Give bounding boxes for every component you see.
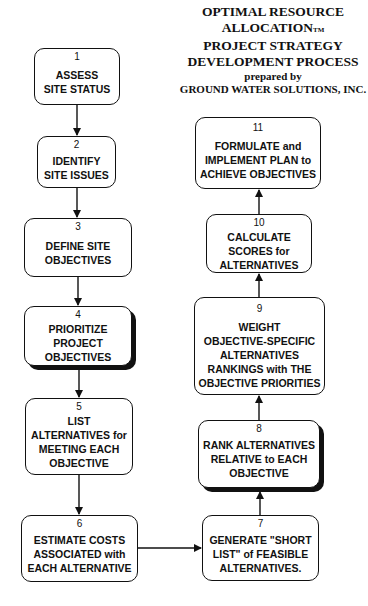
step-label: RANK ALTERNATIVES RELATIVE to EACH OBJEC… [203, 438, 315, 480]
step-label: GENERATE "SHORT LIST" of FEASIBLE ALTERN… [209, 533, 311, 575]
step-number: 8 [256, 423, 262, 435]
step-3-box: 3 DEFINE SITE OBJECTIVES [24, 218, 132, 277]
step-label: PRIORITIZE PROJECT OBJECTIVES [45, 322, 112, 364]
step-label: IDENTIFY SITE ISSUES [44, 154, 109, 182]
step-label: WEIGHT OBJECTIVE-SPECIFIC ALTERNATIVES R… [199, 320, 321, 390]
step-number: 6 [77, 518, 83, 530]
step-label: LIST ALTERNATIVES for MEETING EACH OBJEC… [31, 414, 127, 470]
step-5-box: 5 LIST ALTERNATIVES for MEETING EACH OBJ… [25, 398, 133, 475]
step-number: 9 [257, 303, 263, 315]
step-label: CALCULATE SCORES for ALTERNATIVES [220, 230, 299, 272]
step-number: 1 [74, 51, 80, 63]
step-label: ESTIMATE COSTS ASSOCIATED with EACH ALTE… [27, 533, 131, 575]
step-number: 2 [74, 139, 80, 151]
step-number: 10 [253, 217, 264, 229]
step-10-box: 10 CALCULATE SCORES for ALTERNATIVES [206, 214, 312, 273]
step-number: 5 [76, 401, 82, 413]
step-9-box: 9 WEIGHT OBJECTIVE-SPECIFIC ALTERNATIVES… [194, 297, 325, 395]
step-2-box: 2 IDENTIFY SITE ISSUES [37, 136, 116, 188]
step-number: 3 [75, 221, 81, 233]
step-label: DEFINE SITE OBJECTIVES [45, 239, 112, 267]
step-4-box: 4 PRIORITIZE PROJECT OBJECTIVES [24, 306, 132, 366]
step-label: ASSESS SITE STATUS [44, 68, 111, 96]
step-7-box: 7 GENERATE "SHORT LIST" of FEASIBLE ALTE… [202, 515, 319, 581]
step-label: FORMULATE and IMPLEMENT PLAN to ACHIEVE … [200, 139, 316, 181]
step-number: 11 [253, 122, 263, 134]
step-6-box: 6 ESTIMATE COSTS ASSOCIATED with EACH AL… [21, 515, 138, 582]
step-8-box: 8 RANK ALTERNATIVES RELATIVE to EACH OBJ… [198, 420, 320, 488]
step-1-box: 1 ASSESS SITE STATUS [34, 48, 120, 105]
step-number: 7 [258, 518, 264, 530]
step-11-box: 11 FORMULATE and IMPLEMENT PLAN to ACHIE… [195, 117, 321, 189]
step-number: 4 [75, 309, 81, 321]
